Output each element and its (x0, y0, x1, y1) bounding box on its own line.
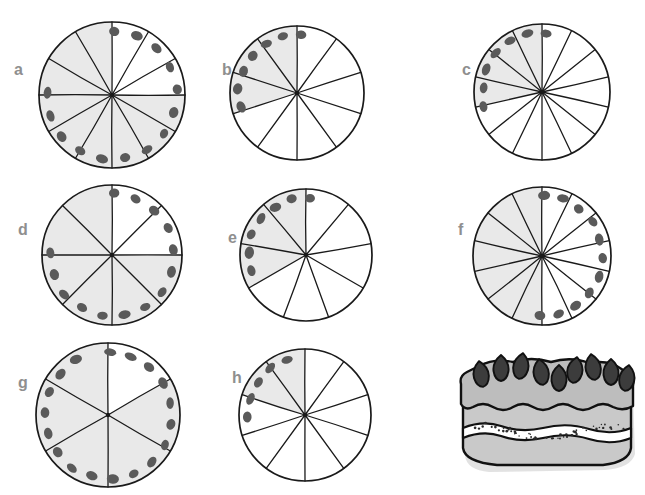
fraction-circle-c (458, 8, 626, 176)
cream-speckle (557, 437, 558, 438)
cream-speckle (474, 426, 477, 429)
figure-label-d: d (18, 222, 28, 238)
cream-speckle (515, 432, 517, 434)
figure-label-a: a (14, 62, 23, 78)
fraction-circle-h (223, 333, 387, 495)
cream-speckle (617, 424, 619, 426)
figure-label-e: e (228, 230, 237, 246)
cream-speckle (502, 430, 505, 433)
cream-speckle (528, 433, 530, 435)
cream-speckle (573, 430, 575, 432)
cream-speckle (491, 426, 493, 428)
cream-speckle (565, 433, 568, 436)
figure-label-b: b (222, 62, 232, 78)
cream-speckle (599, 427, 601, 429)
cream-speckle (566, 436, 568, 438)
circle-center-dot (540, 90, 544, 94)
figure-label-g: g (18, 375, 28, 391)
fraction-circle-a (23, 6, 201, 184)
cream-speckle (582, 427, 584, 429)
cream-speckle (483, 422, 485, 424)
cream-speckle (526, 437, 528, 439)
fraction-circle-f (457, 171, 627, 341)
cream-speckle (481, 425, 483, 427)
figure-label-h: h (232, 370, 242, 386)
cream-speckle (478, 427, 480, 429)
cream-speckle (593, 425, 594, 426)
cake-strawberry (493, 355, 508, 381)
cream-speckle (498, 429, 500, 431)
cream-speckle (601, 424, 602, 425)
worksheet-canvas: abcdefgh (0, 0, 645, 495)
cream-speckle (585, 427, 587, 429)
fraction-circle-e (224, 173, 388, 337)
cream-speckle (559, 437, 561, 439)
cream-speckle (571, 434, 573, 436)
cream-speckle (510, 430, 512, 432)
cream-speckle (622, 428, 624, 430)
cream-speckle (610, 428, 612, 430)
cream-speckle (530, 436, 532, 438)
circle-center-dot (303, 413, 307, 417)
cream-speckle (534, 436, 536, 438)
cake-illustration (455, 350, 640, 490)
circle-center-dot (110, 253, 114, 257)
cream-speckle (559, 433, 562, 436)
cream-speckle (551, 437, 553, 439)
circle-center-dot (304, 253, 308, 257)
cream-speckle (563, 436, 565, 438)
figure-label-f: f (458, 222, 463, 238)
fraction-circle-g (20, 327, 196, 495)
berry-marker (166, 397, 174, 409)
cream-speckle (604, 424, 606, 426)
circle-center-dot (106, 413, 110, 417)
cream-speckle (602, 427, 604, 429)
circle-center-dot (540, 254, 544, 258)
cream-speckle (503, 427, 505, 429)
cream-speckle (575, 433, 577, 435)
fraction-circle-d (26, 169, 198, 341)
cream-speckle (620, 430, 622, 432)
cream-speckle (576, 429, 578, 431)
figure-label-c: c (462, 62, 471, 78)
fraction-circle-b (214, 10, 380, 176)
cream-speckle (595, 428, 598, 431)
cream-speckle (546, 437, 548, 439)
circle-center-dot (295, 91, 299, 95)
cream-speckle (507, 428, 509, 430)
cream-speckle (494, 426, 497, 429)
circle-center-dot (110, 93, 114, 97)
cream-speckle (585, 430, 587, 432)
cream-speckle (518, 435, 519, 436)
